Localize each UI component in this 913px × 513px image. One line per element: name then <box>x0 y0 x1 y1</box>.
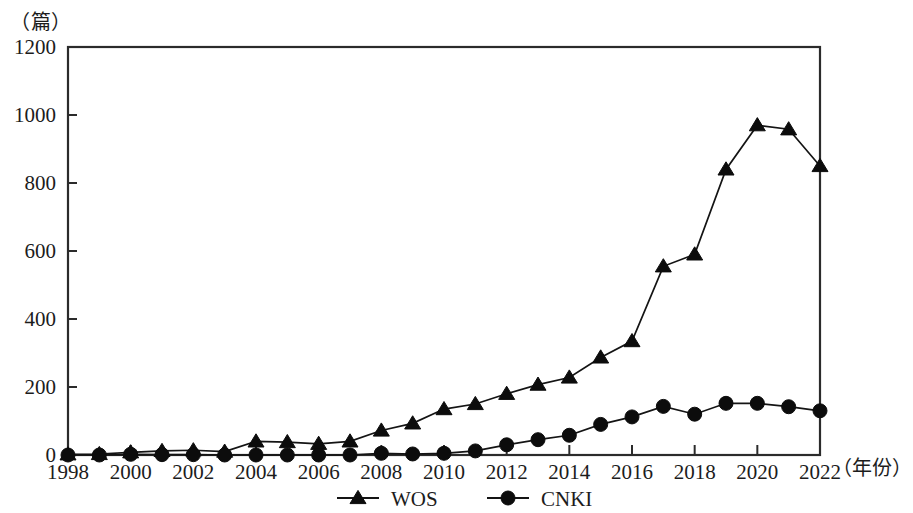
x-tick-label: 2004 <box>235 460 278 484</box>
data-point-marker-circle <box>374 446 388 460</box>
data-point-marker-circle <box>719 396 733 410</box>
data-point-marker-triangle <box>342 434 358 447</box>
data-point-marker-circle <box>92 448 106 462</box>
line-chart-plot: 020040060080010001200 199820002002200420… <box>0 0 913 513</box>
data-point-marker-circle <box>500 438 514 452</box>
x-tick-label: 2016 <box>611 460 653 484</box>
data-point-marker-triangle <box>687 247 703 260</box>
data-point-marker-circle <box>501 491 515 505</box>
y-tick-label: 1200 <box>14 35 56 59</box>
x-tick-label: 2020 <box>736 460 778 484</box>
data-point-marker-circle <box>186 448 200 462</box>
y-tick-label: 200 <box>25 375 57 399</box>
data-point-marker-circle <box>61 448 75 462</box>
data-point-marker-triangle <box>718 162 734 175</box>
chart-legend: WOSCNKI <box>337 487 592 511</box>
data-point-marker-circle <box>280 448 294 462</box>
data-series-group <box>60 118 828 462</box>
data-point-marker-triangle <box>624 334 640 347</box>
data-point-marker-circle <box>813 404 827 418</box>
data-point-marker-circle <box>312 448 326 462</box>
data-point-marker-circle <box>562 428 576 442</box>
y-tick-label: 400 <box>25 307 57 331</box>
y-tick-label: 1000 <box>14 103 56 127</box>
legend-item-wos[interactable] <box>337 490 379 503</box>
data-point-marker-circle <box>656 399 670 413</box>
x-tick-label: 2002 <box>172 460 214 484</box>
x-tick-label: 2018 <box>674 460 716 484</box>
legend-label-cnki: CNKI <box>541 487 592 511</box>
data-point-marker-triangle <box>350 490 366 503</box>
data-point-marker-triangle <box>561 370 577 383</box>
data-point-marker-circle <box>625 410 639 424</box>
data-point-marker-circle <box>594 417 608 431</box>
data-point-marker-triangle <box>749 118 765 131</box>
x-tick-label: 2000 <box>110 460 152 484</box>
data-point-marker-triangle <box>279 434 295 447</box>
y-tick-label: 600 <box>25 239 57 263</box>
data-point-marker-circle <box>155 448 169 462</box>
x-tick-label: 2012 <box>486 460 528 484</box>
x-tick-label: 1998 <box>47 460 89 484</box>
data-point-marker-circle <box>688 407 702 421</box>
data-point-marker-circle <box>406 447 420 461</box>
x-tick-label: 2022 <box>799 460 841 484</box>
data-point-marker-circle <box>437 446 451 460</box>
x-tick-label: 2008 <box>360 460 402 484</box>
data-point-marker-circle <box>782 400 796 414</box>
legend-label-wos: WOS <box>391 487 438 511</box>
data-point-marker-circle <box>124 447 138 461</box>
y-tick-label: 800 <box>25 171 57 195</box>
data-point-marker-circle <box>531 433 545 447</box>
data-point-marker-triangle <box>655 259 671 272</box>
data-point-marker-circle <box>249 448 263 462</box>
plot-frame-rect <box>68 47 820 455</box>
plot-frame <box>68 47 820 455</box>
data-point-marker-triangle <box>405 416 421 429</box>
data-point-marker-triangle <box>593 350 609 363</box>
data-point-marker-circle <box>750 396 764 410</box>
legend-item-cnki[interactable] <box>487 491 529 505</box>
data-point-marker-triangle <box>248 434 264 447</box>
data-point-marker-circle <box>468 444 482 458</box>
x-tick-label: 2014 <box>548 460 591 484</box>
data-point-marker-circle <box>218 448 232 462</box>
x-tick-label: 2006 <box>298 460 340 484</box>
chart-figure: （篇） （年份） 020040060080010001200 199820002… <box>0 0 913 513</box>
data-point-marker-circle <box>343 448 357 462</box>
x-tick-label: 2010 <box>423 460 465 484</box>
